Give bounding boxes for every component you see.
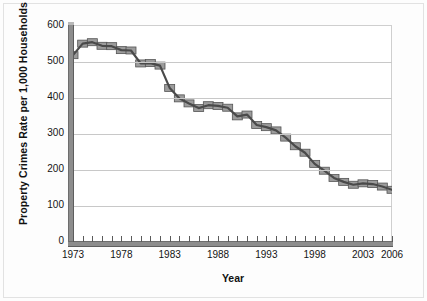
x-axis-tick	[141, 236, 142, 242]
y-axis-tick-label: 400	[34, 91, 64, 102]
y-axis-tick-label: 300	[34, 127, 64, 138]
x-axis-tick	[150, 236, 151, 242]
y-axis-spine-cap	[68, 22, 74, 25]
x-axis-tick	[102, 236, 103, 242]
x-axis-tick	[199, 236, 200, 242]
gridline	[73, 170, 392, 171]
x-axis-tick	[247, 236, 248, 242]
chart-figure: Property Crimes Rate per 1,000 Household…	[0, 0, 427, 301]
x-axis-tick	[324, 236, 325, 242]
x-axis-tick	[179, 236, 180, 242]
x-axis-tick	[208, 236, 209, 242]
gridline	[73, 134, 392, 135]
x-axis-tick	[237, 236, 238, 242]
x-axis-tick	[334, 236, 335, 242]
x-axis-tick	[92, 236, 93, 242]
x-axis-tick	[73, 236, 74, 242]
x-axis-tick	[382, 236, 383, 242]
y-axis-spine	[68, 22, 74, 244]
gridline	[73, 62, 392, 63]
x-axis-tick	[121, 236, 122, 242]
y-axis-tick-label: 0	[34, 235, 64, 246]
x-axis-tick	[344, 236, 345, 242]
x-axis-tick	[295, 236, 296, 242]
x-axis-tick	[276, 236, 277, 242]
x-axis-tick	[218, 236, 219, 242]
x-axis-tick	[83, 236, 84, 242]
x-axis-tick	[305, 236, 306, 242]
plot-area	[73, 25, 392, 241]
x-axis-tick	[170, 236, 171, 242]
x-axis-tick	[131, 236, 132, 242]
x-axis-tick	[286, 236, 287, 242]
x-axis-tick-label: 1973	[53, 249, 93, 260]
y-axis-tick-label: 200	[34, 163, 64, 174]
x-axis-tick-label: 1988	[198, 249, 238, 260]
x-axis-tick	[363, 236, 364, 242]
y-axis-tick-label: 500	[34, 55, 64, 66]
y-axis-tick-label: 100	[34, 199, 64, 210]
y-axis-title: Property Crimes Rate per 1,000 Household…	[17, 15, 29, 225]
x-axis-tick-label: 1998	[295, 249, 335, 260]
x-axis-title: Year	[73, 272, 393, 284]
x-axis-tick-label: 2006	[372, 249, 412, 260]
x-axis-tick-label: 1978	[101, 249, 141, 260]
gridline	[73, 98, 392, 99]
y-axis-tick-label: 600	[34, 19, 64, 30]
x-axis-tick	[228, 236, 229, 242]
x-axis-tick	[353, 236, 354, 242]
x-axis-tick	[160, 236, 161, 242]
x-axis-tick	[189, 236, 190, 242]
gridline	[73, 206, 392, 207]
x-axis-tick	[392, 236, 393, 242]
x-axis-tick-label: 1983	[150, 249, 190, 260]
x-axis-tick	[315, 236, 316, 242]
x-axis-tick-label: 1993	[246, 249, 286, 260]
x-axis-tick	[112, 236, 113, 242]
x-axis-tick	[257, 236, 258, 242]
x-axis-tick	[373, 236, 374, 242]
x-axis-tick	[266, 236, 267, 242]
